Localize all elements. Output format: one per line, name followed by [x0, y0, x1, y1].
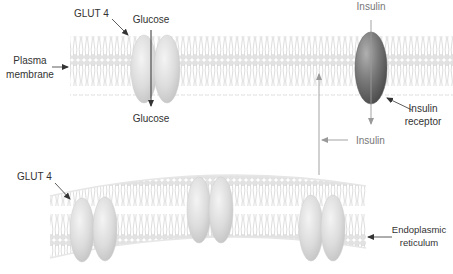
insulin-receptor-label-line2: receptor: [405, 116, 442, 127]
glucose-label-top: Glucose: [133, 14, 170, 25]
er-label-line1: Endoplasmic: [392, 224, 447, 235]
glut4-pointer-arrow-top: [112, 19, 128, 35]
glut4-label-bottom: GLUT 4: [17, 171, 52, 182]
insulin-label-top: Insulin: [357, 1, 386, 12]
insulin-signal-label: Insulin: [356, 135, 385, 146]
plasma-membrane-label-line1: Plasma: [13, 55, 47, 66]
glut4-insulin-diagram: Glucose Glucose GLUT 4 Plasma membrane I…: [0, 0, 453, 274]
glucose-label-bottom: Glucose: [133, 113, 170, 124]
plasma-membrane: [70, 36, 453, 96]
plasma-membrane-label-line2: membrane: [6, 69, 54, 80]
er-label-line2: reticulum: [400, 237, 439, 248]
insulin-receptor-label-line1: Insulin: [409, 103, 438, 114]
glut4-label-top: GLUT 4: [74, 8, 109, 19]
